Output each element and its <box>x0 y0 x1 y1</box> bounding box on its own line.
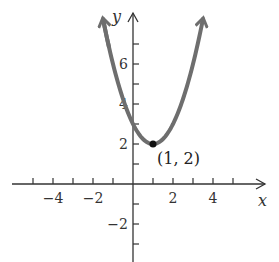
y-axis-label: y <box>111 7 122 26</box>
parabola-curve <box>103 19 203 144</box>
axes <box>12 13 265 262</box>
x-tick-label: −2 <box>83 190 104 206</box>
vertex-point <box>150 141 157 148</box>
tick-labels: −4−224−2246xy <box>43 7 267 232</box>
x-axis-label: x <box>258 191 267 210</box>
y-tick-label: −2 <box>107 216 128 232</box>
x-tick-label: −4 <box>43 190 64 206</box>
vertex-label: (1, 2) <box>157 149 200 168</box>
x-tick-label: 2 <box>169 190 178 206</box>
y-tick-label: 2 <box>119 136 128 152</box>
parabola-path <box>103 19 203 144</box>
parabola-left-arrow <box>103 19 109 47</box>
parabola-chart: −4−224−2246xy (1, 2) <box>0 0 279 262</box>
y-tick-label: 6 <box>119 56 128 72</box>
x-tick-label: 4 <box>209 190 218 206</box>
